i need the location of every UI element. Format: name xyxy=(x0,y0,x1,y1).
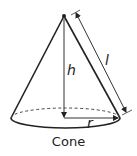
slant-dimension-line xyxy=(76,13,126,112)
base-front-edge xyxy=(11,118,120,128)
slant-tick-bottom xyxy=(122,110,132,115)
slant-tick-top xyxy=(71,10,80,15)
apex-point xyxy=(62,14,66,18)
caption: Cone xyxy=(0,134,137,149)
height-label: h xyxy=(67,62,76,78)
cone-left-side xyxy=(11,16,64,118)
slant-label: l xyxy=(105,52,109,68)
radius-label: r xyxy=(87,115,93,131)
cone-diagram xyxy=(0,0,137,156)
base-back-edge xyxy=(11,108,120,118)
